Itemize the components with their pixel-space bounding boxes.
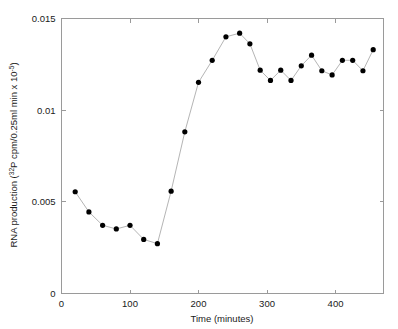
y-axis-title: RNA production (32P cpm/0.25ml min x 10-… bbox=[8, 62, 19, 247]
data-point bbox=[299, 63, 304, 68]
data-point bbox=[73, 189, 78, 194]
x-tick-label-300: 300 bbox=[259, 298, 275, 309]
data-point bbox=[288, 78, 293, 83]
data-point bbox=[86, 209, 91, 214]
data-point bbox=[268, 78, 273, 83]
data-point bbox=[350, 58, 355, 63]
x-tick-label-200: 200 bbox=[191, 298, 207, 309]
data-point bbox=[182, 129, 187, 134]
y-tick-label-0: 0 bbox=[50, 288, 55, 299]
data-point bbox=[371, 47, 376, 52]
y-axis-title-part-1: RNA production ( bbox=[8, 174, 19, 247]
data-point bbox=[247, 41, 252, 46]
data-point bbox=[169, 189, 174, 194]
x-axis-title: Time (minutes) bbox=[191, 313, 254, 324]
rna-production-line-chart: 0100200300400 00.0050.010.015 Time (minu… bbox=[0, 0, 398, 329]
y-tick-label-0.005: 0.005 bbox=[32, 196, 56, 207]
data-series-line bbox=[75, 33, 373, 243]
x-tick-label-400: 400 bbox=[328, 298, 344, 309]
x-tick-label-0: 0 bbox=[59, 298, 64, 309]
y-axis-ticks bbox=[62, 19, 384, 294]
data-point bbox=[237, 31, 242, 36]
data-point bbox=[258, 68, 263, 73]
data-point bbox=[196, 80, 201, 85]
data-point bbox=[319, 68, 324, 73]
data-point bbox=[309, 53, 314, 58]
x-axis-tick-labels: 0100200300400 bbox=[59, 298, 344, 309]
y-axis-tick-labels: 00.0050.010.015 bbox=[32, 13, 56, 299]
data-point bbox=[223, 34, 228, 39]
data-point bbox=[340, 58, 345, 63]
chart-figure: 0100200300400 00.0050.010.015 Time (minu… bbox=[0, 0, 398, 329]
data-point bbox=[114, 226, 119, 231]
y-tick-label-0.01: 0.01 bbox=[37, 105, 56, 116]
y-axis-title-part-3: ) bbox=[8, 62, 19, 65]
x-axis-ticks bbox=[62, 19, 336, 294]
data-point bbox=[278, 68, 283, 73]
data-point bbox=[330, 72, 335, 77]
data-point bbox=[127, 223, 132, 228]
data-series-markers bbox=[73, 31, 376, 247]
data-point bbox=[141, 237, 146, 242]
data-point bbox=[210, 58, 215, 63]
plot-border bbox=[62, 19, 384, 294]
y-tick-label-0.015: 0.015 bbox=[32, 13, 56, 24]
x-tick-label-100: 100 bbox=[122, 298, 138, 309]
plot-frame bbox=[62, 19, 384, 294]
series-polyline bbox=[75, 33, 373, 243]
data-point bbox=[360, 68, 365, 73]
data-point bbox=[155, 241, 160, 246]
y-axis-title-part-2: P cpm/0.25ml min x 10 bbox=[8, 71, 19, 167]
data-point bbox=[100, 223, 105, 228]
